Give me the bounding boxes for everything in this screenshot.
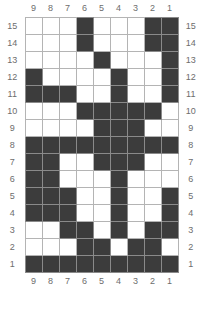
chart-cell-r12-c3[interactable] [127,68,144,85]
chart-cell-r2-c7[interactable] [59,238,76,255]
chart-cell-r4-c5[interactable] [93,204,110,221]
chart-cell-r6-c9[interactable] [25,170,42,187]
chart-cell-r5-c1[interactable] [161,187,178,204]
chart-cell-r11-c7[interactable] [59,85,76,102]
chart-cell-r5-c3[interactable] [127,187,144,204]
chart-cell-r1-c8[interactable] [42,255,59,272]
chart-cell-r3-c8[interactable] [42,221,59,238]
chart-cell-r7-c3[interactable] [127,153,144,170]
chart-cell-r9-c3[interactable] [127,119,144,136]
chart-cell-r10-c3[interactable] [127,102,144,119]
chart-cell-r9-c7[interactable] [59,119,76,136]
chart-cell-r2-c6[interactable] [76,238,93,255]
chart-cell-r5-c8[interactable] [42,187,59,204]
chart-cell-r13-c1[interactable] [161,51,178,68]
chart-cell-r10-c6[interactable] [76,102,93,119]
chart-cell-r14-c6[interactable] [76,34,93,51]
chart-cell-r3-c1[interactable] [161,221,178,238]
chart-cell-r1-c5[interactable] [93,255,110,272]
chart-cell-r11-c2[interactable] [144,85,161,102]
chart-cell-r9-c5[interactable] [93,119,110,136]
chart-cell-r13-c7[interactable] [59,51,76,68]
chart-cell-r13-c8[interactable] [42,51,59,68]
chart-cell-r11-c5[interactable] [93,85,110,102]
chart-cell-r13-c3[interactable] [127,51,144,68]
chart-cell-r5-c4[interactable] [110,187,127,204]
chart-cell-r5-c5[interactable] [93,187,110,204]
chart-cell-r15-c3[interactable] [127,17,144,34]
chart-cell-r6-c8[interactable] [42,170,59,187]
chart-cell-r14-c3[interactable] [127,34,144,51]
chart-cell-r9-c8[interactable] [42,119,59,136]
chart-cell-r1-c7[interactable] [59,255,76,272]
chart-cell-r11-c1[interactable] [161,85,178,102]
chart-cell-r9-c9[interactable] [25,119,42,136]
chart-cell-r4-c2[interactable] [144,204,161,221]
chart-cell-r2-c3[interactable] [127,238,144,255]
chart-cell-r15-c7[interactable] [59,17,76,34]
chart-cell-r11-c4[interactable] [110,85,127,102]
chart-cell-r14-c8[interactable] [42,34,59,51]
chart-cell-r10-c1[interactable] [161,102,178,119]
chart-cell-r6-c7[interactable] [59,170,76,187]
chart-cell-r7-c8[interactable] [42,153,59,170]
chart-cell-r4-c1[interactable] [161,204,178,221]
chart-cell-r4-c3[interactable] [127,204,144,221]
chart-cell-r5-c6[interactable] [76,187,93,204]
chart-cell-r10-c5[interactable] [93,102,110,119]
chart-cell-r12-c2[interactable] [144,68,161,85]
chart-cell-r15-c2[interactable] [144,17,161,34]
chart-cell-r8-c2[interactable] [144,136,161,153]
chart-cell-r9-c1[interactable] [161,119,178,136]
chart-cell-r8-c1[interactable] [161,136,178,153]
chart-cell-r11-c6[interactable] [76,85,93,102]
chart-cell-r15-c8[interactable] [42,17,59,34]
chart-cell-r2-c5[interactable] [93,238,110,255]
chart-cell-r7-c7[interactable] [59,153,76,170]
chart-cell-r3-c2[interactable] [144,221,161,238]
chart-cell-r1-c1[interactable] [161,255,178,272]
chart-cell-r6-c2[interactable] [144,170,161,187]
chart-cell-r6-c4[interactable] [110,170,127,187]
chart-cell-r1-c9[interactable] [25,255,42,272]
chart-cell-r7-c2[interactable] [144,153,161,170]
chart-cell-r14-c7[interactable] [59,34,76,51]
chart-cell-r5-c2[interactable] [144,187,161,204]
chart-cell-r13-c4[interactable] [110,51,127,68]
chart-cell-r2-c4[interactable] [110,238,127,255]
chart-cell-r12-c1[interactable] [161,68,178,85]
chart-cell-r4-c7[interactable] [59,204,76,221]
chart-cell-r11-c9[interactable] [25,85,42,102]
chart-cell-r2-c9[interactable] [25,238,42,255]
chart-cell-r11-c8[interactable] [42,85,59,102]
chart-cell-r8-c5[interactable] [93,136,110,153]
chart-cell-r1-c2[interactable] [144,255,161,272]
chart-cell-r10-c2[interactable] [144,102,161,119]
chart-cell-r3-c7[interactable] [59,221,76,238]
chart-cell-r14-c1[interactable] [161,34,178,51]
chart-cell-r14-c4[interactable] [110,34,127,51]
chart-cell-r4-c9[interactable] [25,204,42,221]
chart-cell-r9-c2[interactable] [144,119,161,136]
chart-cell-r2-c8[interactable] [42,238,59,255]
chart-cell-r7-c4[interactable] [110,153,127,170]
chart-cell-r15-c6[interactable] [76,17,93,34]
chart-cell-r6-c5[interactable] [93,170,110,187]
chart-cell-r8-c6[interactable] [76,136,93,153]
chart-cell-r6-c6[interactable] [76,170,93,187]
chart-cell-r13-c5[interactable] [93,51,110,68]
chart-cell-r14-c5[interactable] [93,34,110,51]
chart-cell-r15-c1[interactable] [161,17,178,34]
chart-cell-r12-c9[interactable] [25,68,42,85]
chart-cell-r8-c3[interactable] [127,136,144,153]
chart-cell-r7-c5[interactable] [93,153,110,170]
chart-cell-r4-c4[interactable] [110,204,127,221]
chart-cell-r3-c9[interactable] [25,221,42,238]
chart-cell-r15-c9[interactable] [25,17,42,34]
chart-cell-r8-c7[interactable] [59,136,76,153]
chart-cell-r13-c6[interactable] [76,51,93,68]
chart-cell-r7-c6[interactable] [76,153,93,170]
chart-cell-r15-c4[interactable] [110,17,127,34]
chart-cell-r12-c5[interactable] [93,68,110,85]
chart-cell-r9-c4[interactable] [110,119,127,136]
